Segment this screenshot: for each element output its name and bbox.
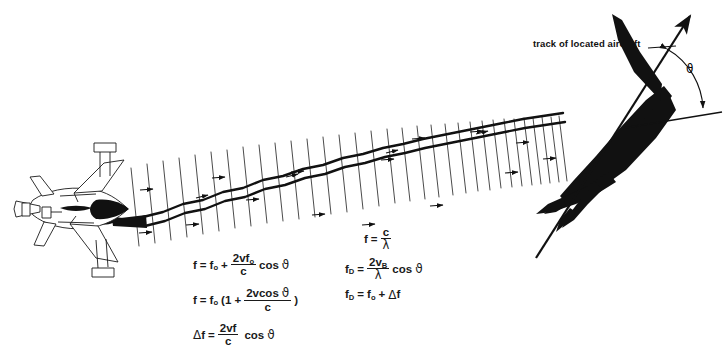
diagram-canvas: track of located aircraft ϑ f = fo + 2vf… (0, 0, 724, 358)
f-zero-sub: o (213, 299, 218, 307)
denominator: c (218, 334, 239, 348)
cos-label: cos (259, 260, 279, 272)
doppler-diagram-graphics (0, 0, 724, 358)
fraction-c-over-lambda: c λ (381, 226, 392, 253)
plus-op: + (221, 260, 228, 272)
angle-symbol: ϑ (282, 259, 289, 271)
angle-symbol-label: ϑ (686, 62, 693, 76)
close-paren: ) (294, 295, 298, 307)
angle-symbol: ϑ (415, 263, 422, 275)
fd-sub: D (349, 294, 354, 302)
fd-sub: D (349, 268, 354, 276)
formula-doppler-shifted-frequency: f = fo + 2vfo c cos ϑ (193, 252, 289, 279)
f-rhs: f (396, 289, 400, 301)
equals: = (357, 264, 364, 276)
fraction-2vf-over-c: 2vf c (218, 322, 239, 349)
open-paren-one-plus: (1 + (221, 295, 241, 307)
equals: = (200, 295, 207, 307)
plus-op: + (379, 289, 386, 301)
formula-doppler-frequency-sum: fD = fo + Δ f (345, 289, 400, 301)
denominator: c (231, 264, 256, 278)
fraction-2vf0-over-c: 2vfo c (231, 252, 256, 279)
angle-symbol: ϑ (267, 329, 274, 341)
formula-doppler-factored-frequency: f = fo (1 + 2vcosϑ c ) (193, 287, 298, 314)
delta-symbol: Δ (388, 289, 396, 301)
equals: = (357, 289, 364, 301)
fraction-2vb-over-lambda: 2vB λ (367, 256, 389, 283)
numerator: 2vcos (246, 287, 279, 299)
fraction-2vcos-over-c: 2vcosϑ c (244, 287, 291, 314)
numerator-angle: ϑ (282, 286, 289, 300)
f-zero-sub: o (213, 264, 218, 272)
formula-frequency-wavelength: f = c λ (364, 226, 394, 253)
numerator: 2v (369, 256, 382, 268)
f-lhs: f (193, 295, 197, 307)
f-zero-sub: o (371, 294, 376, 302)
equals: = (371, 234, 378, 246)
cos-label: cos (244, 330, 264, 342)
denominator: λ (367, 268, 389, 282)
f-lhs: f (364, 234, 368, 246)
numerator-sub: o (249, 257, 254, 266)
f-lhs: f (193, 260, 197, 272)
numerator: 2vf (218, 322, 239, 335)
formula-frequency-shift: Δ f = 2vf c cos ϑ (193, 322, 275, 349)
delta-symbol: Δ (193, 329, 201, 341)
numerator-sub: B (382, 261, 387, 270)
track-label: track of located aircraft (533, 38, 641, 49)
denominator: c (244, 300, 291, 314)
cos-label: cos (392, 264, 412, 276)
f-lhs: f (201, 330, 205, 342)
numerator: c (381, 226, 391, 239)
formula-doppler-frequency-velocity: fD = 2vB λ cos ϑ (345, 256, 423, 283)
numerator: 2vf (233, 252, 250, 264)
denominator: λ (381, 238, 392, 252)
equals: = (208, 330, 215, 342)
equals: = (200, 260, 207, 272)
